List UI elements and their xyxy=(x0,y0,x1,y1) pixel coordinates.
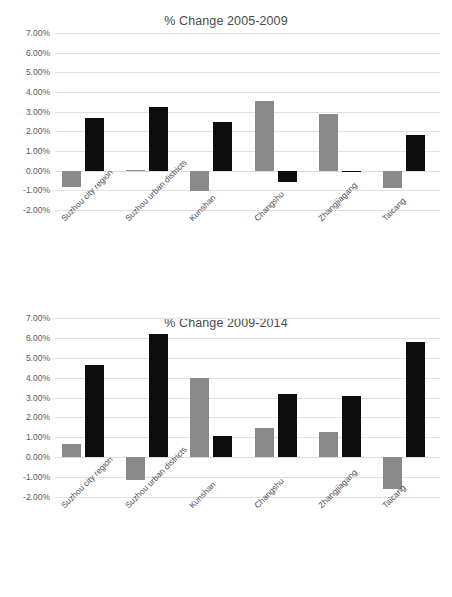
y-axis-tick-label: 2.00% xyxy=(26,126,50,136)
plot-area-2005-2009: 7.00%6.00%5.00%4.00%3.00%2.00%1.00%0.00%… xyxy=(55,33,440,210)
bar xyxy=(213,436,232,457)
bar xyxy=(126,170,145,172)
gridline xyxy=(55,151,440,152)
bar xyxy=(278,171,297,182)
bar xyxy=(62,444,81,457)
y-axis-tick-label: -2.00% xyxy=(23,492,50,502)
gridline xyxy=(55,33,440,34)
bar xyxy=(319,114,338,171)
y-axis-tick-label: 1.00% xyxy=(26,432,50,442)
y-axis-tick-label: 5.00% xyxy=(26,353,50,363)
gridline xyxy=(55,378,440,379)
gridline xyxy=(55,210,440,211)
bar xyxy=(255,428,274,457)
bar xyxy=(342,171,361,173)
gridline xyxy=(55,318,440,319)
bar xyxy=(278,394,297,458)
y-axis-tick-label: 0.00% xyxy=(26,452,50,462)
bar xyxy=(62,171,81,188)
chart-percent-change-2009-2014: % Change 2009-2014 7.00%6.00%5.00%4.00%3… xyxy=(0,298,452,597)
y-axis-tick-label: 3.00% xyxy=(26,393,50,403)
y-axis-tick-label: 7.00% xyxy=(26,28,50,38)
bar xyxy=(342,396,361,457)
gridline xyxy=(55,398,440,399)
bar xyxy=(149,107,168,171)
bar xyxy=(190,378,209,457)
y-axis-tick-label: -1.00% xyxy=(23,472,50,482)
plot-area-2009-2014: 7.00%6.00%5.00%4.00%3.00%2.00%1.00%0.00%… xyxy=(55,318,440,497)
bar xyxy=(319,432,338,457)
gridline xyxy=(55,437,440,438)
y-axis-tick-label: 0.00% xyxy=(26,166,50,176)
y-axis-tick-label: 5.00% xyxy=(26,67,50,77)
chart-percent-change-2005-2009: % Change 2005-2009 7.00%6.00%5.00%4.00%3… xyxy=(0,0,452,298)
gridline xyxy=(55,53,440,54)
y-axis-tick-label: -1.00% xyxy=(23,185,50,195)
bar xyxy=(85,118,104,171)
bar xyxy=(213,122,232,170)
bar xyxy=(406,342,425,457)
y-axis-tick-label: 7.00% xyxy=(26,313,50,323)
chart-title: % Change 2005-2009 xyxy=(0,14,452,28)
gridline xyxy=(55,497,440,498)
gridline xyxy=(55,92,440,93)
y-axis-tick-label: 6.00% xyxy=(26,48,50,58)
y-axis-tick-label: 2.00% xyxy=(26,412,50,422)
gridline xyxy=(55,72,440,73)
y-axis-tick-label: 1.00% xyxy=(26,146,50,156)
y-axis-tick-label: 4.00% xyxy=(26,87,50,97)
bar xyxy=(255,101,274,171)
bar xyxy=(406,135,425,170)
gridline xyxy=(55,190,440,191)
gridline xyxy=(55,338,440,339)
y-axis-tick-label: 6.00% xyxy=(26,333,50,343)
bar xyxy=(149,334,168,458)
bar xyxy=(190,171,209,192)
y-axis-tick-label: -2.00% xyxy=(23,205,50,215)
gridline xyxy=(55,131,440,132)
gridline xyxy=(55,417,440,418)
gridline xyxy=(55,358,440,359)
bar xyxy=(383,171,402,188)
gridline xyxy=(55,112,440,113)
bar xyxy=(85,365,104,457)
y-axis-tick-label: 4.00% xyxy=(26,373,50,383)
bar xyxy=(126,457,145,480)
y-axis-tick-label: 3.00% xyxy=(26,107,50,117)
